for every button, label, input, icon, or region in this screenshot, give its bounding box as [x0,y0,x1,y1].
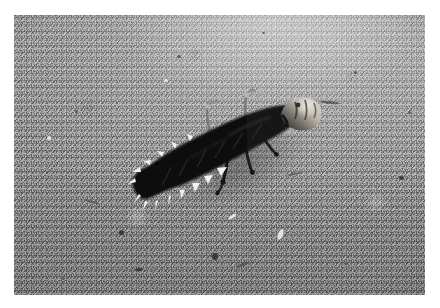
margin-top [0,0,440,15]
margin-right [425,0,440,308]
photo-stage: Beetle larva on granular light surface [0,0,440,308]
margin-left [0,0,14,308]
margin-bottom [0,295,440,308]
photograph [14,15,425,295]
photo-vignette [14,15,425,295]
